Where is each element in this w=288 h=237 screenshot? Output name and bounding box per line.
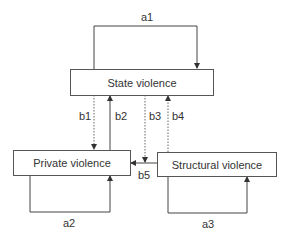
node-state-label: State violence	[107, 77, 176, 89]
node-structural-violence: Structural violence	[157, 152, 277, 177]
edge-label-b2: b2	[115, 111, 127, 122]
edge-a3	[168, 176, 247, 213]
edge-a1	[94, 26, 197, 69]
edge-label-b3: b3	[149, 111, 161, 122]
node-private-violence: Private violence	[13, 150, 131, 176]
edge-a2	[30, 175, 110, 212]
node-state-violence: State violence	[70, 69, 214, 96]
node-private-label: Private violence	[33, 157, 111, 169]
edge-label-a1: a1	[141, 12, 153, 23]
edge-label-b1: b1	[79, 111, 91, 122]
edge-label-a2: a2	[63, 218, 75, 229]
edge-label-b4: b4	[172, 111, 184, 122]
edge-label-b5: b5	[138, 170, 150, 181]
edge-label-a3: a3	[202, 219, 214, 230]
node-structural-label: Structural violence	[172, 159, 263, 171]
diagram-edges	[0, 0, 288, 237]
